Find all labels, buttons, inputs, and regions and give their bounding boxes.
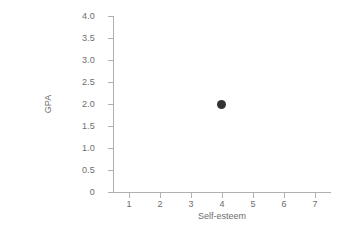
x-tick-mark — [253, 193, 254, 198]
x-tick-label: 4 — [212, 200, 232, 209]
x-tick-label: 6 — [274, 200, 294, 209]
y-tick-label: 1.5 — [69, 122, 95, 131]
x-tick-mark — [222, 193, 223, 198]
y-tick-mark — [108, 126, 113, 127]
y-tick-label: 2.0 — [69, 100, 95, 109]
y-tick-label: 4.0 — [69, 12, 95, 21]
y-tick-mark — [108, 38, 113, 39]
y-tick-mark — [108, 60, 113, 61]
y-tick-label: 0 — [69, 188, 95, 197]
clipped-caption-artifact — [0, 233, 344, 240]
x-tick-mark — [315, 193, 316, 198]
y-tick-mark — [108, 104, 113, 105]
x-tick-mark — [284, 193, 285, 198]
y-axis-line — [113, 16, 114, 193]
y-axis-label: GPA — [44, 95, 53, 113]
x-axis-label: Self-esteem — [113, 212, 331, 221]
x-tick-label: 3 — [181, 200, 201, 209]
x-tick-label: 1 — [119, 200, 139, 209]
y-tick-mark — [108, 170, 113, 171]
y-tick-label: 0.5 — [69, 166, 95, 175]
x-tick-label: 7 — [305, 200, 325, 209]
y-tick-mark — [108, 192, 113, 193]
x-tick-label: 5 — [243, 200, 263, 209]
y-tick-label: 1.0 — [69, 144, 95, 153]
y-tick-mark — [108, 148, 113, 149]
y-tick-label: 3.5 — [69, 34, 95, 43]
x-tick-mark — [129, 193, 130, 198]
y-tick-label: 2.5 — [69, 78, 95, 87]
y-tick-mark — [108, 82, 113, 83]
scatter-plot-figure: 00.51.01.52.02.53.03.54.0 1234567 Self-e… — [0, 0, 344, 240]
x-tick-mark — [191, 193, 192, 198]
y-tick-label: 3.0 — [69, 56, 95, 65]
x-tick-mark — [160, 193, 161, 198]
y-tick-mark — [108, 16, 113, 17]
data-point — [217, 100, 226, 109]
x-tick-label: 2 — [150, 200, 170, 209]
